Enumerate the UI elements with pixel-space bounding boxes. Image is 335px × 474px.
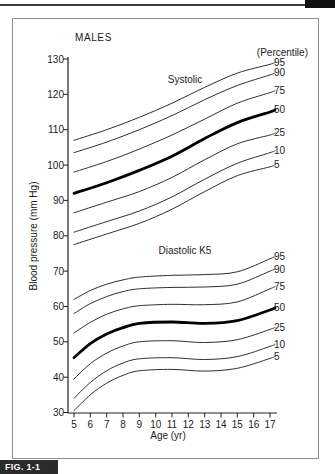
systolic-percentile-label-25: 25: [274, 127, 300, 138]
diastolic-percentile-label-25: 25: [274, 322, 300, 333]
y-tick-label-60: 60: [36, 301, 64, 312]
axis-lines: [68, 57, 278, 414]
diastolic-curve-p95: [74, 257, 275, 300]
systolic-group-label: Systolic: [155, 74, 215, 85]
systolic-percentile-label-5: 5: [274, 159, 300, 170]
figure-number: FIG. 1-1: [5, 462, 40, 472]
page: MALES (Percentile) Systolic Diastolic K5…: [0, 0, 335, 474]
chart-title: MALES: [75, 32, 112, 43]
systolic-curve-p50: [74, 110, 275, 193]
systolic-percentile-label-50: 50: [274, 104, 300, 115]
diastolic-curve-p5: [74, 356, 275, 410]
x-axis-title: Age (yr): [128, 430, 208, 441]
diastolic-curve-p75: [74, 287, 275, 333]
x-tick-label-17: 17: [260, 419, 280, 430]
diastolic-group-label: Diastolic K5: [150, 245, 220, 256]
y-tick-label-30: 30: [36, 407, 64, 418]
systolic-percentile-label-95: 95: [274, 57, 300, 68]
diastolic-curve-p10: [74, 344, 275, 398]
diastolic-percentile-label-75: 75: [274, 281, 300, 292]
diastolic-percentile-label-10: 10: [274, 339, 300, 350]
y-tick-label-100: 100: [36, 160, 64, 171]
figure-number-tag: FIG. 1-1: [0, 460, 58, 474]
diastolic-percentile-label-50: 50: [274, 302, 300, 313]
systolic-percentile-label-10: 10: [274, 145, 300, 156]
y-tick-label-70: 70: [36, 266, 64, 277]
y-tick-label-50: 50: [36, 336, 64, 347]
y-tick-label-90: 90: [36, 195, 64, 206]
y-tick-label-120: 120: [36, 89, 64, 100]
systolic-percentile-label-90: 90: [274, 67, 300, 78]
diastolic-percentile-label-95: 95: [274, 251, 300, 262]
diastolic-percentile-label-90: 90: [274, 264, 300, 275]
y-tick-label-130: 130: [36, 54, 64, 65]
diastolic-percentile-label-5: 5: [274, 351, 300, 362]
y-tick-label-80: 80: [36, 230, 64, 241]
y-tick-label-40: 40: [36, 372, 64, 383]
systolic-curve-p75: [74, 91, 275, 173]
y-tick-label-110: 110: [36, 124, 64, 135]
systolic-percentile-label-75: 75: [274, 85, 300, 96]
